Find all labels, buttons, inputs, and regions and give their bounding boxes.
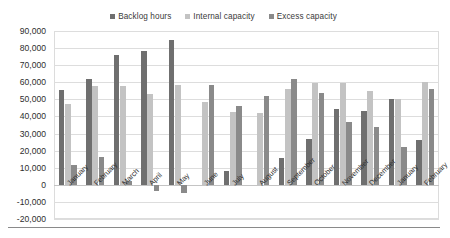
legend-label-excess-capacity: Excess capacity <box>277 12 337 21</box>
bar[interactable] <box>422 82 428 185</box>
bar[interactable] <box>312 83 318 185</box>
bar[interactable] <box>65 104 71 185</box>
legend-item-internal-capacity[interactable]: Internal capacity <box>185 12 254 21</box>
y-axis-tick-label: -10,000 <box>17 197 46 207</box>
bar[interactable] <box>202 102 208 185</box>
y-axis: 90,00080,00070,00060,00050,00040,00030,0… <box>0 31 50 219</box>
y-axis-tick-label: 80,000 <box>20 43 46 53</box>
y-axis-tick-label: 90,000 <box>20 26 46 36</box>
bar[interactable] <box>120 86 126 185</box>
legend-label-backlog-hours: Backlog hours <box>118 12 171 21</box>
y-axis-tick-label: 40,000 <box>20 111 46 121</box>
legend-item-excess-capacity[interactable]: Excess capacity <box>269 12 337 21</box>
y-axis-tick-label: 60,000 <box>20 77 46 87</box>
bar[interactable] <box>230 112 236 185</box>
bar[interactable] <box>389 99 395 184</box>
bar[interactable] <box>285 89 291 185</box>
chart-legend: Backlog hours Internal capacity Excess c… <box>0 8 447 24</box>
y-axis-tick-label: 20,000 <box>20 146 46 156</box>
legend-swatch-internal-capacity <box>185 14 190 19</box>
bar[interactable] <box>92 86 98 185</box>
bar[interactable] <box>334 109 340 185</box>
bar[interactable] <box>395 99 401 184</box>
legend-swatch-backlog-hours <box>110 14 115 19</box>
y-axis-tick-label: -20,000 <box>17 214 46 224</box>
bar[interactable] <box>147 94 153 185</box>
y-axis-tick-label: 0 <box>41 180 46 190</box>
bar[interactable] <box>59 90 65 185</box>
bar[interactable] <box>361 111 367 184</box>
y-axis-tick-label: 10,000 <box>20 163 46 173</box>
bar[interactable] <box>169 40 175 185</box>
bar[interactable] <box>367 91 373 185</box>
legend-swatch-excess-capacity <box>269 14 274 19</box>
legend-label-internal-capacity: Internal capacity <box>193 12 254 21</box>
page-bottom-rule <box>8 227 440 228</box>
legend-item-backlog-hours[interactable]: Backlog hours <box>110 12 171 21</box>
y-axis-tick-label: 70,000 <box>20 60 46 70</box>
y-axis-tick-label: 30,000 <box>20 129 46 139</box>
bar[interactable] <box>175 85 181 185</box>
y-axis-tick-label: 50,000 <box>20 94 46 104</box>
bar[interactable] <box>340 83 346 185</box>
bar[interactable] <box>141 51 147 185</box>
